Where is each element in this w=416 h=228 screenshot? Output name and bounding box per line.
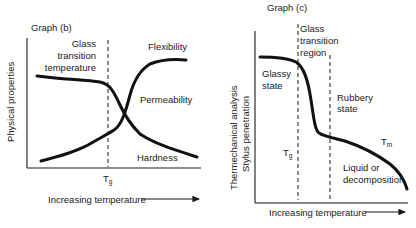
graph-b: Graph (b) Physical properties Glass tran… bbox=[5, 22, 201, 205]
graph-b-marker-label-3: temperature bbox=[45, 62, 96, 73]
graph-c-region-label-2: transition bbox=[300, 35, 339, 46]
graph-c-glassy-label-1: Glassy bbox=[262, 68, 291, 79]
graph-b-permeability-label: Permeability bbox=[140, 94, 193, 105]
graph-c-region-label-3: region bbox=[300, 47, 326, 58]
graph-b-title: Graph (b) bbox=[31, 22, 72, 33]
graph-c-glassy-label-2: state bbox=[262, 80, 283, 91]
graph-b-marker-label-1: Glass bbox=[72, 38, 97, 49]
graph-b-marker-label-2: transition bbox=[57, 50, 96, 61]
graph-c-rubbery-label-2: state bbox=[337, 103, 358, 114]
graph-b-hardness-curve bbox=[37, 76, 197, 157]
graph-c: Graph (c) Thermechanical analysis Stylus… bbox=[228, 2, 408, 218]
graph-c-y-label-1: Thermechanical analysis bbox=[228, 85, 239, 190]
graph-b-tg-label: Tg bbox=[103, 173, 113, 186]
figure-canvas: Graph (b) Physical properties Glass tran… bbox=[0, 0, 416, 228]
graph-b-flexibility-label: Flexibility bbox=[148, 41, 187, 52]
graph-c-liquid-label-2: decomposition bbox=[343, 174, 404, 185]
graph-c-rubbery-label-1: Rubbery bbox=[337, 92, 373, 103]
graph-c-tm-label: Tm bbox=[381, 136, 392, 148]
graph-c-region-label-1: Glass bbox=[300, 23, 325, 34]
graph-c-title: Graph (c) bbox=[267, 2, 307, 13]
graph-c-x-label: Increasing temperature bbox=[269, 207, 367, 218]
graph-b-y-label: Physical properties bbox=[5, 61, 16, 142]
graph-c-liquid-label-1: Liquid or bbox=[343, 162, 379, 173]
graph-c-tg-label: Tg bbox=[283, 147, 293, 160]
graph-b-x-label: Increasing temperature bbox=[48, 194, 146, 205]
graph-c-y-label-2: Stylus penetration bbox=[240, 96, 251, 172]
graph-b-hardness-label: Hardness bbox=[137, 152, 178, 163]
